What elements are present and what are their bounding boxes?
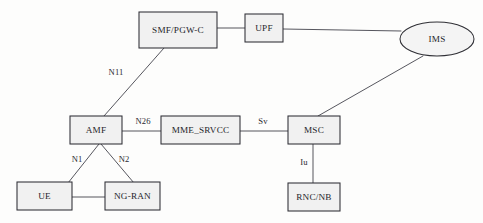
edge-label-n2: N2 [119,154,130,164]
node-label: MME_SRVCC [172,125,230,135]
edge-upf-ims[interactable] [283,29,401,31]
edge-label-n11: N11 [109,67,124,77]
network-diagram: SMF/PGW-CUPFIMSAMFMME_SRVCCMSCUENG-RANRN… [0,0,483,223]
edge-amf-smf_pgwc[interactable] [104,48,164,116]
node-ims[interactable]: IMS [400,22,474,56]
node-msc[interactable]: MSC [288,116,340,144]
node-label: UE [38,191,51,201]
edge-hit-area[interactable] [104,48,164,116]
edge-msc-ims[interactable] [318,56,423,116]
node-label: MSC [304,125,324,135]
node-label: UPF [255,23,272,33]
nodes-layer: SMF/PGW-CUPFIMSAMFMME_SRVCCMSCUENG-RANRN… [17,12,474,211]
edge-hit-area[interactable] [318,56,423,116]
node-rnc_nb[interactable]: RNC/NB [288,183,340,211]
node-upf[interactable]: UPF [245,14,283,42]
node-smf_pgwc[interactable]: SMF/PGW-C [139,12,217,48]
node-label: SMF/PGW-C [152,25,204,35]
edge-label-sv: Sv [258,116,268,126]
diagram-canvas: SMF/PGW-CUPFIMSAMFMME_SRVCCMSCUENG-RANRN… [0,0,483,223]
edge-hit-area[interactable] [283,29,401,31]
node-mme_srvcc[interactable]: MME_SRVCC [161,116,240,144]
node-label: RNC/NB [296,192,331,202]
node-label: NG-RAN [114,191,151,201]
node-amf[interactable]: AMF [70,116,122,144]
node-ng_ran[interactable]: NG-RAN [105,182,160,210]
node-label: IMS [429,34,446,44]
node-ue[interactable]: UE [17,182,72,210]
edge-label-iu: Iu [300,157,308,167]
edges-layer [68,28,423,197]
edge-label-n26: N26 [135,116,151,126]
node-label: AMF [86,125,107,135]
edge-label-n1: N1 [72,154,83,164]
